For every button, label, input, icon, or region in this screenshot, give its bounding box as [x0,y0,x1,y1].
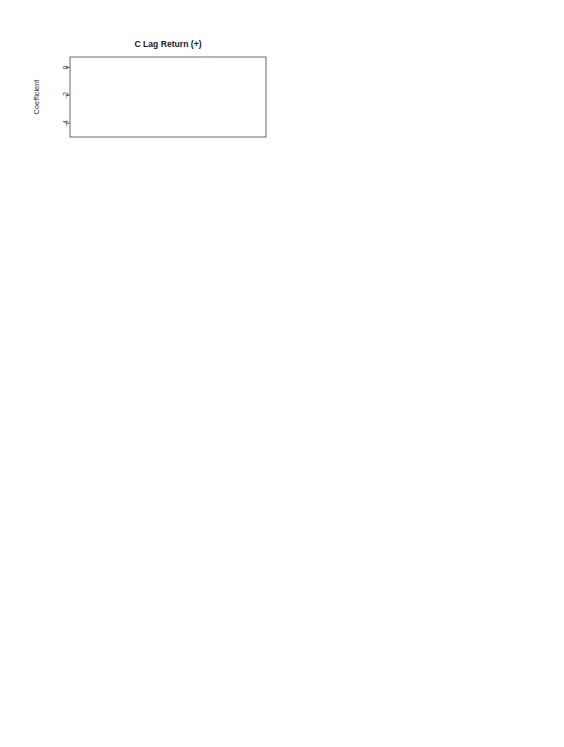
figure-root: C Lag Return (+)0-2-4Coefficient [0,0,564,747]
quantile-regression-coefficient-panels: C Lag Return (+)0-2-4Coefficient [0,0,564,747]
panel-c-lag-return-pos: C Lag Return (+)0-2-4Coefficient [32,39,266,137]
y-tick-label: 0 [61,65,70,69]
y-tick-label: -2 [61,92,70,98]
y-tick-label: -4 [61,120,70,126]
plot-frame [70,57,266,137]
y-axis-label: Coefficient [32,80,41,115]
panel-title-c-lag-return-pos: C Lag Return (+) [134,39,201,49]
running-head [0,0,564,12]
